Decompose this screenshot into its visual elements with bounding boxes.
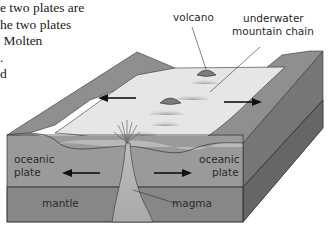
label-magma: magma xyxy=(172,197,212,209)
label-left-plate: plate xyxy=(14,166,41,178)
label-mantle: mantle xyxy=(42,197,79,209)
label-mountain-chain-line1: underwater xyxy=(243,12,304,24)
volcano-leader xyxy=(192,27,206,69)
mid-ocean-ridge-diagram: volcano underwater mountain chain oceani… xyxy=(0,0,328,225)
label-mountain-chain-line2: mountain chain xyxy=(232,25,314,37)
label-right-plate: plate xyxy=(212,166,239,178)
label-right-oceanic: oceanic xyxy=(199,153,240,165)
label-volcano: volcano xyxy=(173,11,214,23)
label-left-oceanic: oceanic xyxy=(14,153,55,165)
